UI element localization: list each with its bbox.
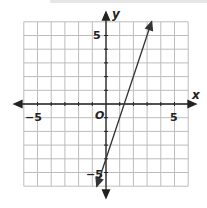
y-axis xyxy=(103,12,110,198)
y-tick-label-pos5: 5 xyxy=(93,29,101,42)
x-axis xyxy=(14,101,196,108)
y-axis-label: y xyxy=(112,7,121,21)
x-axis-left-arrow-icon xyxy=(14,101,22,108)
y-tick-label-neg5: −5 xyxy=(86,168,103,181)
y-axis-down-arrow-icon xyxy=(103,190,110,198)
coordinate-plane: y x O −5 5 5 −5 xyxy=(0,0,207,208)
y-axis-up-arrow-icon xyxy=(103,12,110,20)
x-tick-label-pos5: 5 xyxy=(170,111,178,124)
x-tick-label-neg5: −5 xyxy=(25,111,42,124)
origin-label: O xyxy=(95,109,104,122)
x-axis-label: x xyxy=(191,88,201,102)
